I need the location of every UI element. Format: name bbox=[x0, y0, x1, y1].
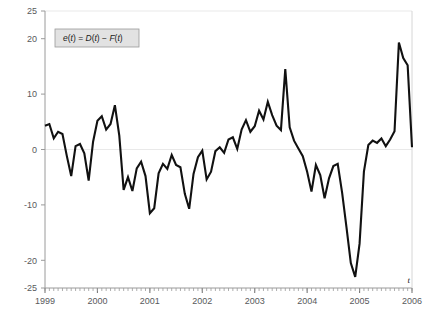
legend-equation-label: e(t) = D(t) − F(t) bbox=[63, 33, 123, 43]
x-tick-label: 2001 bbox=[140, 296, 160, 306]
y-tick-label: -20 bbox=[24, 256, 37, 266]
x-tick-label: 2006 bbox=[402, 296, 422, 306]
line-chart: 2520100-10-20-25 19992000200120022003200… bbox=[0, 0, 439, 329]
y-tick-label: 10 bbox=[27, 89, 37, 99]
x-tick-label: 2000 bbox=[87, 296, 107, 306]
y-tick-label: -25 bbox=[24, 283, 37, 293]
y-tick-label: 20 bbox=[27, 34, 37, 44]
x-tick-label: 2002 bbox=[192, 296, 212, 306]
x-tick-label: 1999 bbox=[35, 296, 55, 306]
x-tick-label: 2003 bbox=[245, 296, 265, 306]
x-tick-label: 2005 bbox=[350, 296, 370, 306]
y-tick-label: 25 bbox=[27, 6, 37, 16]
legend-symbol: ) − bbox=[97, 33, 110, 43]
legend-box: e(t) = D(t) − F(t) bbox=[55, 29, 139, 47]
y-tick-label: 0 bbox=[32, 145, 37, 155]
y-tick-label: -10 bbox=[24, 200, 37, 210]
x-tick-label: 2004 bbox=[297, 296, 317, 306]
chart-background bbox=[0, 0, 439, 329]
legend-symbol: ) = bbox=[73, 33, 86, 43]
legend-symbol: ) bbox=[120, 33, 123, 43]
figure-panel: 2520100-10-20-25 19992000200120022003200… bbox=[0, 0, 439, 329]
